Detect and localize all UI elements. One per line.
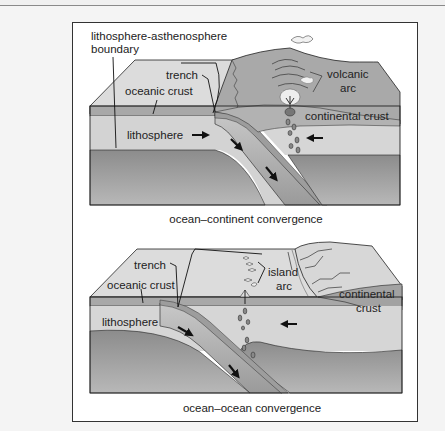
label-boundary-line1: lithosphere-asthenosphere	[91, 30, 227, 42]
eruption-plume	[291, 36, 313, 43]
label-continental: continental	[339, 288, 395, 300]
label-arc: arc	[276, 280, 292, 292]
caption-ocean-ocean: ocean–ocean convergence	[183, 402, 321, 414]
label-oceanic-crust: oceanic crust	[125, 85, 194, 97]
tectonic-convergence-diagram: lithosphere-asthenosphere boundary trenc…	[0, 0, 445, 431]
label-lithosphere: lithosphere	[102, 316, 158, 328]
label-trench: trench	[134, 259, 166, 271]
oceanic-crust-band	[90, 106, 215, 116]
label-boundary-line2: boundary	[91, 43, 139, 55]
label-continental-crust: continental crust	[305, 110, 390, 122]
label-crust: crust	[356, 302, 382, 314]
label-lithosphere: lithosphere	[127, 129, 183, 141]
caption-ocean-continent: ocean–continent convergence	[169, 213, 322, 225]
label-trench: trench	[166, 69, 198, 81]
magma-blob-icon	[285, 108, 295, 116]
label-island: island	[268, 266, 298, 278]
label-oceanic-crust: oceanic crust	[107, 279, 176, 291]
panel-ocean-ocean: trench oceanic crust lithosphere island …	[90, 242, 402, 414]
label-arc: arc	[340, 82, 356, 94]
panel-ocean-continent: lithosphere-asthenosphere boundary trenc…	[90, 30, 400, 225]
label-volcanic: volcanic	[327, 68, 369, 80]
continental-lithosphere	[262, 124, 400, 155]
